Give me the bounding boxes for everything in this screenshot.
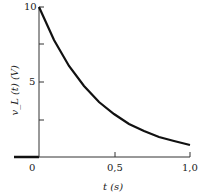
x-axis-label: t (s) — [103, 181, 123, 192]
y-axis-label: v_L (t) (V) — [9, 76, 20, 116]
y-tick-10: 10 — [24, 1, 37, 12]
x-tick-0-5: 0,5 — [107, 162, 123, 173]
decay-curve — [39, 7, 190, 145]
x-tick-0: 0 — [29, 162, 35, 173]
x-tick-1-0: 1,0 — [182, 162, 198, 173]
y-tick-5: 5 — [29, 76, 35, 87]
